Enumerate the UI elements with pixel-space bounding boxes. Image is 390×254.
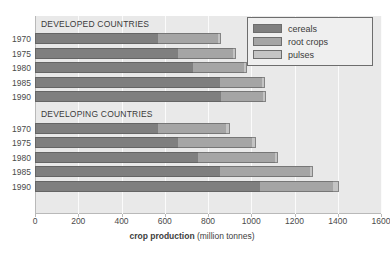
bar-segment-cereals xyxy=(35,123,158,134)
bar-segment-root-crops xyxy=(193,62,244,73)
legend-swatch-root-crops xyxy=(253,37,282,46)
group-caption: DEVELOPING COUNTRIES xyxy=(41,109,153,119)
y-tick-label: 1975 xyxy=(0,138,31,148)
bar-segment-pulses xyxy=(275,152,278,163)
legend-item: root crops xyxy=(253,35,367,48)
y-tick-label: 1970 xyxy=(0,124,31,134)
bar-segment-root-crops xyxy=(260,181,334,192)
x-tick-label: 0 xyxy=(33,216,38,226)
bar-segment-pulses xyxy=(333,181,338,192)
bar-segment-cereals xyxy=(35,166,220,177)
group-caption: DEVELOPED COUNTRIES xyxy=(41,19,149,29)
y-tick-label: 1970 xyxy=(0,34,31,44)
bar-row xyxy=(35,137,256,148)
legend-label: cereals xyxy=(288,24,317,34)
y-tick-label: 1985 xyxy=(0,167,31,177)
bar-segment-pulses xyxy=(218,33,221,44)
y-tick-label: 1985 xyxy=(0,78,31,88)
x-axis-title-units: (million tonnes) xyxy=(195,231,255,241)
bar-segment-pulses xyxy=(310,166,313,177)
x-tick-label: 1200 xyxy=(285,216,304,226)
bar-segment-root-crops xyxy=(178,137,253,148)
clipped-top-text xyxy=(0,0,384,6)
bar-row xyxy=(35,48,236,59)
bar-segment-pulses xyxy=(226,123,229,134)
bar-row xyxy=(35,181,339,192)
bar-segment-pulses xyxy=(233,48,236,59)
bar-segment-cereals xyxy=(35,62,193,73)
y-tick-label: 1980 xyxy=(0,63,31,73)
bar-row xyxy=(35,77,265,88)
bar-segment-cereals xyxy=(35,33,158,44)
legend-item: pulses xyxy=(253,48,367,61)
bar-row xyxy=(35,91,266,102)
bar-segment-cereals xyxy=(35,181,260,192)
bar-segment-root-crops xyxy=(158,123,226,134)
x-tick-label: 800 xyxy=(201,216,215,226)
bar-segment-cereals xyxy=(35,137,178,148)
x-tick-label: 400 xyxy=(114,216,128,226)
bar-segment-pulses xyxy=(252,137,255,148)
bar-segment-cereals xyxy=(35,152,198,163)
x-axis-title: crop production (million tonnes) xyxy=(0,231,384,241)
bar-segment-cereals xyxy=(35,91,221,102)
y-tick-label: 1975 xyxy=(0,49,31,59)
legend-swatch-cereals xyxy=(253,24,282,33)
bar-segment-root-crops xyxy=(220,77,262,88)
x-tick-label: 200 xyxy=(71,216,85,226)
legend-label: pulses xyxy=(288,50,314,60)
x-tick-label: 1400 xyxy=(328,216,347,226)
x-tick-label: 1600 xyxy=(372,216,390,226)
y-tick-label: 1980 xyxy=(0,153,31,163)
legend-swatch-pulses xyxy=(253,50,282,59)
legend-label: root crops xyxy=(288,37,328,47)
x-tick-label: 1000 xyxy=(242,216,261,226)
bar-row xyxy=(35,33,221,44)
bar-segment-root-crops xyxy=(220,166,310,177)
bar-segment-root-crops xyxy=(198,152,275,163)
bar-segment-root-crops xyxy=(221,91,263,102)
bar-row xyxy=(35,62,247,73)
bar-segment-root-crops xyxy=(178,48,233,59)
bar-segment-cereals xyxy=(35,77,220,88)
bar-row xyxy=(35,166,313,177)
x-tick-label: 600 xyxy=(158,216,172,226)
y-axis-tick-labels: 1970197519801985199019701975198019851990 xyxy=(0,16,33,214)
bar-row xyxy=(35,152,278,163)
bar-segment-pulses xyxy=(262,77,265,88)
y-tick-label: 1990 xyxy=(0,182,31,192)
bar-segment-root-crops xyxy=(158,33,217,44)
bar-row xyxy=(35,123,230,134)
y-tick-label: 1990 xyxy=(0,92,31,102)
bar-segment-pulses xyxy=(263,91,266,102)
x-axis-title-bold: crop production xyxy=(129,231,194,241)
bar-segment-cereals xyxy=(35,48,178,59)
gridline xyxy=(381,16,382,214)
legend-item: cereals xyxy=(253,22,367,35)
legend: cerealsroot cropspulses xyxy=(247,17,373,66)
